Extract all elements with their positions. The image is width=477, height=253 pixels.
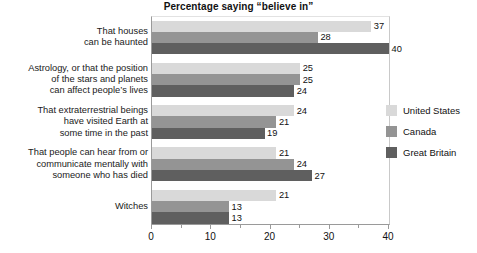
bar (152, 32, 318, 43)
bar (152, 128, 265, 139)
plot-area: That housescan be haunted372840Astrology… (151, 16, 390, 225)
chart-title: Percentage saying “believe in” (0, 1, 477, 12)
legend-item[interactable]: United States (386, 100, 477, 121)
bar-row: 37 (152, 21, 389, 32)
bar (152, 43, 389, 54)
category-label: That extraterrestrial beingshave visited… (37, 105, 148, 139)
bar-value-label: 21 (279, 190, 289, 200)
bar-row: 13 (152, 201, 389, 212)
bar (152, 159, 294, 170)
legend-swatch (386, 126, 397, 137)
category-label-line: That people can hear from or (28, 147, 148, 158)
bar-row: 21 (152, 147, 389, 158)
bar-value-label: 24 (297, 159, 307, 169)
bar-value-label: 21 (279, 117, 289, 127)
category-label-line: someone who has died (28, 170, 148, 181)
bar-row: 40 (152, 43, 389, 54)
category-label-line: That houses (84, 26, 148, 37)
x-axis-tick-label: 40 (382, 231, 393, 242)
category-label-line: can affect people’s lives (28, 85, 148, 96)
x-axis-minor-tick (358, 225, 359, 228)
bar-value-label: 40 (392, 44, 402, 54)
category-label-line: Witches (115, 201, 148, 212)
bar-row: 28 (152, 32, 389, 43)
bar (152, 170, 312, 181)
bar-chart: Percentage saying “believe in” That hous… (0, 0, 477, 253)
bar-value-label: 28 (320, 32, 330, 42)
bar (152, 74, 300, 85)
x-axis-minor-tick (181, 225, 182, 228)
category-label: Witches (115, 201, 148, 212)
bar-row: 24 (152, 105, 389, 116)
x-axis-tick (151, 225, 152, 229)
bar-value-label: 13 (232, 202, 242, 212)
category-label-line: some time in the past (37, 128, 148, 139)
bar-row: 21 (152, 116, 389, 127)
bar-row: 25 (152, 74, 389, 85)
bar (152, 147, 276, 158)
x-axis-tick-label: 0 (148, 231, 154, 242)
category-label-line: communicate mentally with (28, 159, 148, 170)
bar-group: That people can hear from orcommunicate … (152, 147, 389, 181)
chart-legend: United StatesCanadaGreat Britain (386, 100, 477, 163)
bar-row: 13 (152, 212, 389, 223)
category-label-line: have visited Earth at (37, 116, 148, 127)
category-label-line: can be haunted (84, 37, 148, 48)
bar-value-label: 25 (303, 75, 313, 85)
bar-row: 21 (152, 190, 389, 201)
category-label-line: That extraterrestrial beings (37, 105, 148, 116)
category-label: Astrology, or that the positionof the st… (28, 63, 148, 97)
bar-value-label: 21 (279, 148, 289, 158)
bar (152, 201, 229, 212)
category-label-line: Astrology, or that the position (28, 63, 148, 74)
bar-value-label: 37 (374, 21, 384, 31)
x-axis-tick (329, 225, 330, 229)
bar (152, 21, 371, 32)
bar (152, 116, 276, 127)
bar-group: That housescan be haunted372840 (152, 21, 389, 55)
category-label: That people can hear from orcommunicate … (28, 147, 148, 181)
bar (152, 63, 300, 74)
legend-item[interactable]: Canada (386, 121, 477, 142)
legend-label: Canada (403, 126, 436, 137)
x-axis-tick (270, 225, 271, 229)
x-axis-tick-label: 30 (323, 231, 334, 242)
bar-value-label: 24 (297, 106, 307, 116)
x-axis-tick-label: 20 (264, 231, 275, 242)
bar-row: 27 (152, 170, 389, 181)
legend-label: United States (403, 105, 460, 116)
bar-group: Astrology, or that the positionof the st… (152, 63, 389, 97)
bar-value-label: 24 (297, 86, 307, 96)
bar (152, 105, 294, 116)
x-axis-tick (388, 225, 389, 229)
bar (152, 212, 229, 223)
bar (152, 85, 294, 96)
legend-item[interactable]: Great Britain (386, 142, 477, 163)
bar-group: That extraterrestrial beingshave visited… (152, 105, 389, 139)
bar-row: 24 (152, 159, 389, 170)
bar-row: 24 (152, 85, 389, 96)
x-axis-minor-tick (240, 225, 241, 228)
category-label-line: of the stars and planets (28, 74, 148, 85)
bar-value-label: 25 (303, 63, 313, 73)
bar-value-label: 19 (267, 128, 277, 138)
x-axis-minor-tick (299, 225, 300, 228)
bar-row: 25 (152, 63, 389, 74)
legend-swatch (386, 147, 397, 158)
bar-value-label: 13 (232, 213, 242, 223)
category-label: That housescan be haunted (84, 26, 148, 49)
legend-label: Great Britain (403, 147, 456, 158)
legend-swatch (386, 105, 397, 116)
x-axis-tick-label: 10 (205, 231, 216, 242)
bar-group: Witches211313 (152, 190, 389, 224)
bar (152, 190, 276, 201)
bar-value-label: 27 (314, 171, 324, 181)
bar-row: 19 (152, 128, 389, 139)
x-axis-tick (210, 225, 211, 229)
